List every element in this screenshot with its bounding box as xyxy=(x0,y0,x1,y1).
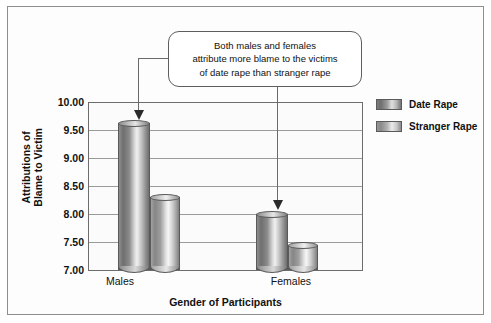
bar-cap-icon xyxy=(288,242,318,249)
y-tick-8-00: 8.00 xyxy=(38,209,84,220)
bar-females-date-rape xyxy=(256,214,288,270)
y-tick-9-00: 9.00 xyxy=(38,153,84,164)
callout-text: Both males and females attribute more bl… xyxy=(186,39,343,79)
bar-females-stranger-rape xyxy=(288,245,318,270)
y-tick-7-50: 7.50 xyxy=(38,237,84,248)
x-axis-label: Gender of Participants xyxy=(88,296,363,308)
callout-arrowhead-males xyxy=(134,110,144,120)
x-tick-males: Males xyxy=(60,275,180,287)
bar-cap-icon xyxy=(118,120,150,127)
bar-males-stranger-rape xyxy=(150,197,180,270)
callout-arrowhead-females xyxy=(273,200,283,210)
legend-swatch-date-rape-icon xyxy=(376,99,402,110)
callout-connector-left-horizontal xyxy=(138,58,169,59)
bar-cap-icon xyxy=(150,194,180,201)
legend-item-date-rape: Date Rape xyxy=(376,96,480,113)
legend-swatch-stranger-rape-icon xyxy=(376,121,402,132)
legend-item-stranger-rape: Stranger Rape xyxy=(376,118,480,135)
legend: Date Rape Stranger Rape xyxy=(376,96,480,140)
legend-label-stranger-rape: Stranger Rape xyxy=(409,121,477,132)
x-tick-females: Females xyxy=(231,275,351,287)
y-tick-9-50: 9.50 xyxy=(38,125,84,136)
y-tick-7-00: 7.00 xyxy=(38,265,84,276)
callout-connector-left-vertical xyxy=(138,58,139,112)
figure-container: 10.00 9.50 9.00 8.50 8.00 7.50 7.00 Attr… xyxy=(0,0,491,323)
plot-area xyxy=(88,102,363,271)
y-axis-label: Attributions of Blame to Victim xyxy=(20,102,45,232)
legend-label-date-rape: Date Rape xyxy=(409,99,458,110)
callout-connector-right-vertical xyxy=(277,87,278,202)
bar-cap-icon xyxy=(256,211,288,218)
y-tick-8-50: 8.50 xyxy=(38,181,84,192)
callout-box: Both males and females attribute more bl… xyxy=(168,31,362,87)
bar-males-date-rape xyxy=(118,123,150,270)
y-tick-10-00: 10.00 xyxy=(38,97,84,108)
